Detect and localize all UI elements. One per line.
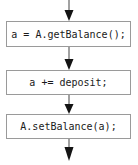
node-label: A.setBalance(a); [20, 121, 116, 132]
node-label: a += deposit; [29, 77, 107, 88]
flowchart-node-set-balance: A.setBalance(a); [6, 114, 131, 139]
edge-entry-to-node-1 [65, 0, 74, 21]
edge-node-2-to-node-3 [65, 95, 74, 114]
flowchart-node-get-balance: a = A.getBalance(); [6, 21, 131, 47]
node-label: a = A.getBalance(); [11, 29, 125, 40]
flowchart-node-add-deposit: a += deposit; [6, 70, 131, 95]
edge-node-3-to-exit [65, 139, 74, 161]
edge-node-1-to-node-2 [65, 47, 74, 70]
flowchart-diagram: a = A.getBalance(); a += deposit; A.setB… [0, 0, 138, 165]
